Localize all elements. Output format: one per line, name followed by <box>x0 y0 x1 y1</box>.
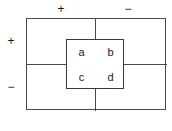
axis-label-top-negative: − <box>121 3 135 15</box>
inner-cell-c: c <box>67 65 96 90</box>
diagram-canvas: + − + − a b c d <box>0 0 172 131</box>
inner-cell-b: b <box>96 40 125 65</box>
axis-label-left-positive: + <box>4 35 18 47</box>
axis-label-left-negative: − <box>4 81 18 93</box>
inner-cell-d: d <box>96 65 125 90</box>
inner-quadrant-box: a b c d <box>66 39 124 89</box>
inner-cell-a: a <box>67 40 96 65</box>
axis-label-top-positive: + <box>54 3 68 15</box>
